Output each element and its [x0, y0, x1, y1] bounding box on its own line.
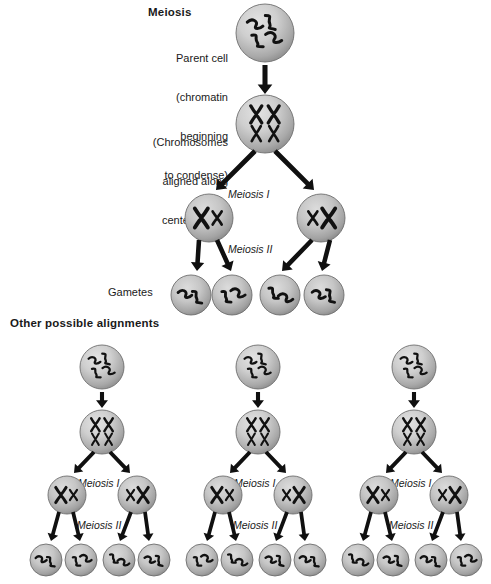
alt-gamete-cell-1-3: [103, 544, 135, 576]
arrow-parent-to-metaphase: [258, 65, 273, 94]
centromere: [107, 423, 110, 426]
alt-arrow-d1-gamete-1-2: [204, 512, 217, 542]
alt-gamete-cell-2-3: [259, 544, 291, 576]
centromere: [297, 493, 300, 496]
cell-membrane: [259, 544, 291, 576]
alt-arrow-meta-to-daughter-2-2: [265, 451, 286, 473]
alt-arrow-d1-gamete-1-3: [360, 512, 373, 542]
cell-membrane: [204, 476, 242, 514]
alt-gamete-cell-3-2: [377, 544, 409, 576]
alt-arrow-meta-to-daughter-1-2: [230, 451, 251, 473]
cell-membrane: [48, 476, 86, 514]
alt-gamete-cell-3-3: [415, 544, 447, 576]
alt-arrow-parent-to-metaphase-2: [252, 392, 264, 408]
centromere: [199, 216, 203, 220]
alt-gamete-cell-3-4: [450, 544, 482, 576]
cell-membrane: [138, 544, 170, 576]
alt-gamete-cell-1-1: [30, 544, 62, 576]
meiosis-one-daughter-cell-2: [297, 194, 345, 242]
cell-membrane: [80, 345, 124, 389]
centromere: [272, 112, 276, 116]
alt-daughter-cell-1-2: [204, 476, 242, 514]
centromere: [141, 493, 144, 496]
alt-arrow-d1-gamete-2-3: [383, 512, 395, 541]
alt-arrow-d2-gamete-3-2: [273, 511, 288, 541]
parent-cell: [236, 4, 294, 62]
alignment-column-1: [30, 345, 170, 576]
centromere: [250, 438, 252, 441]
alt-gamete-cell-1-4: [138, 544, 170, 576]
alt-arrow-parent-to-metaphase-3: [408, 392, 420, 408]
gamete-cell-4: [304, 275, 344, 315]
alt-metaphase-cell-1: [80, 410, 124, 454]
alignment-column-2: [186, 345, 326, 576]
centromere: [420, 438, 422, 441]
centromere: [228, 494, 230, 496]
centromere: [272, 132, 275, 135]
cell-membrane: [185, 194, 233, 242]
centromere: [264, 438, 266, 441]
centromere: [59, 493, 62, 496]
meiosis-one-daughter-cell-1: [185, 194, 233, 242]
centromere: [441, 494, 443, 496]
alt-daughter-cell-1-1: [48, 476, 86, 514]
centromere: [453, 493, 456, 496]
alt-parent-cell-1: [80, 345, 124, 389]
centromere: [129, 494, 131, 496]
alt-daughter-cell-2-1: [118, 476, 156, 514]
arrow-daughter-2-to-gamete-3: [282, 238, 314, 271]
cell-membrane: [377, 544, 409, 576]
alt-gamete-cell-2-2: [221, 544, 253, 576]
centromere: [72, 494, 74, 496]
centromere: [94, 438, 96, 441]
centromere: [215, 493, 218, 496]
centromere: [311, 216, 314, 219]
cell-membrane: [304, 275, 344, 315]
alt-arrow-d2-gamete-3-3: [429, 511, 444, 541]
main-meiosis-diagram: [171, 4, 345, 315]
centromere: [263, 423, 266, 426]
alt-metaphase-cell-3: [392, 410, 436, 454]
cell-membrane: [297, 194, 345, 242]
diagram-graphics-layer: [0, 0, 491, 584]
cell-membrane: [236, 4, 294, 62]
centromere: [371, 493, 374, 496]
metaphase-cell: [236, 95, 294, 153]
centromere: [285, 494, 287, 496]
centromere: [384, 494, 386, 496]
cell-membrane: [236, 95, 294, 153]
alt-gamete-cell-2-1: [186, 544, 218, 576]
alt-gamete-cell-1-2: [65, 544, 97, 576]
centromere: [406, 423, 409, 426]
alt-daughter-cell-1-3: [360, 476, 398, 514]
cell-membrane: [236, 345, 280, 389]
arrow-metaphase-to-daughter-2: [273, 149, 314, 190]
alt-daughter-cell-2-3: [430, 476, 468, 514]
cell-membrane: [430, 476, 468, 514]
centromere: [216, 216, 219, 219]
alt-arrow-d2-gamete-4-2: [299, 512, 310, 541]
alt-gamete-cell-2-4: [294, 544, 326, 576]
centromere: [250, 423, 253, 426]
alt-arrow-d2-gamete-3-1: [117, 511, 132, 541]
cell-membrane: [80, 410, 124, 454]
cell-membrane: [274, 476, 312, 514]
alignment-column-3: [342, 345, 482, 576]
alt-arrow-d1-gamete-2-1: [71, 512, 83, 541]
alt-arrow-d1-gamete-1-1: [48, 512, 61, 542]
alt-parent-cell-2: [236, 345, 280, 389]
centromere: [94, 423, 97, 426]
gamete-cell-1: [171, 275, 211, 315]
gamete-cell-2: [212, 275, 252, 315]
alt-arrow-d2-gamete-4-3: [455, 512, 466, 541]
alt-arrow-meta-to-daughter-2-1: [109, 451, 130, 473]
centromere: [406, 438, 408, 441]
alt-metaphase-cell-2: [236, 410, 280, 454]
alt-arrow-meta-to-daughter-1-1: [74, 451, 95, 473]
cell-membrane: [392, 345, 436, 389]
alt-arrow-d2-gamete-4-1: [143, 512, 154, 541]
cell-membrane: [360, 476, 398, 514]
alt-parent-cell-3: [392, 345, 436, 389]
centromere: [419, 423, 422, 426]
alt-gamete-cell-3-1: [342, 544, 374, 576]
